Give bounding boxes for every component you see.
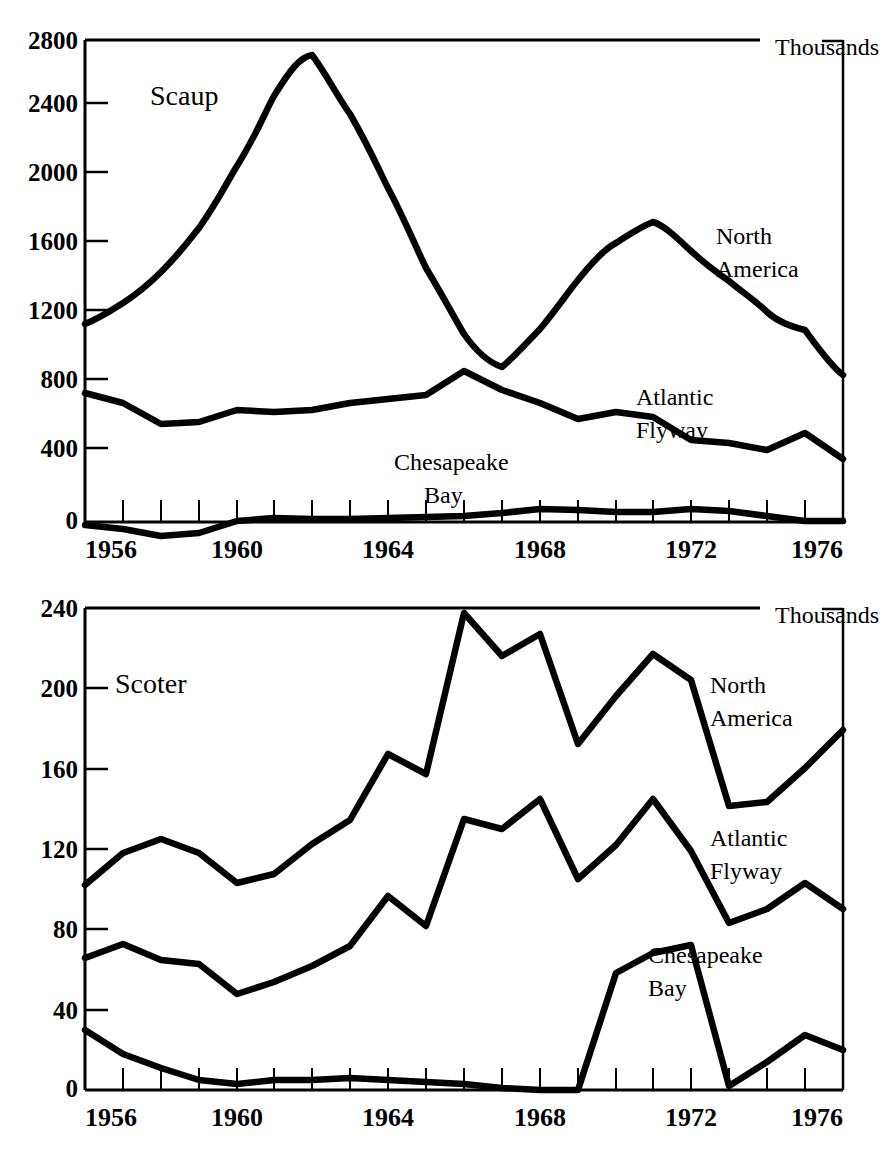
- scaup-xtick-label-1964: 1964: [362, 535, 414, 564]
- scoter-ytick-label-200: 200: [41, 675, 79, 702]
- scoter-label-north-america-line1: North: [710, 672, 766, 698]
- scoter-ytick-label-160: 160: [41, 756, 79, 783]
- scaup-plot-svg: 2800 2400 2000 1600 1200 800 400 0: [0, 0, 894, 584]
- scoter-label-north-america-line2: America: [710, 705, 793, 731]
- scaup-xtick-label-1972: 1972: [665, 535, 717, 564]
- chart-scoter: 240 200 160 120 80 40 0: [0, 568, 894, 1168]
- scoter-xtick-label-1964: 1964: [362, 1103, 414, 1132]
- scoter-label-chesapeake-bay-line1: Chesapeake: [648, 942, 763, 968]
- chart-scaup: 2800 2400 2000 1600 1200 800 400 0: [0, 0, 894, 584]
- scoter-ytick-label-0: 0: [66, 1075, 79, 1102]
- scaup-ytick-label-2800: 2800: [28, 27, 78, 54]
- scoter-plot-title: Scoter: [115, 668, 187, 699]
- scaup-units-label: Thousands: [775, 34, 879, 60]
- scaup-plot-title: Scaup: [150, 80, 218, 111]
- scaup-ytick-label-2400: 2400: [28, 90, 78, 117]
- scaup-label-atlantic-flyway-line1: Atlantic: [636, 384, 713, 410]
- scaup-xtick-label-1976: 1976: [791, 535, 843, 564]
- scaup-label-chesapeake-bay-line2: Bay: [424, 482, 463, 508]
- scoter-y-ticks: [85, 688, 108, 1010]
- scaup-xtick-label-1956: 1956: [85, 535, 137, 564]
- scaup-ytick-label-1200: 1200: [28, 297, 78, 324]
- scaup-ytick-label-400: 400: [41, 435, 79, 462]
- scaup-ytick-label-0: 0: [66, 507, 79, 534]
- scoter-ytick-label-80: 80: [53, 916, 78, 943]
- scaup-ytick-label-800: 800: [41, 366, 79, 393]
- scoter-xtick-label-1976: 1976: [791, 1103, 843, 1132]
- scaup-series-atlantic-flyway: [85, 371, 843, 459]
- scoter-label-atlantic-flyway-line2: Flyway: [710, 858, 782, 884]
- scoter-units-label: Thousands: [775, 602, 879, 628]
- scaup-label-chesapeake-bay-line1: Chesapeake: [394, 449, 509, 475]
- scoter-label-atlantic-flyway-line1: Atlantic: [710, 825, 787, 851]
- scaup-label-north-america-line2: America: [716, 256, 799, 282]
- scoter-xtick-label-1972: 1972: [665, 1103, 717, 1132]
- scaup-label-north-america-line1: North: [716, 223, 772, 249]
- scoter-ytick-label-120: 120: [41, 836, 79, 863]
- scoter-ytick-label-40: 40: [53, 997, 78, 1024]
- scaup-xtick-label-1960: 1960: [211, 535, 263, 564]
- scoter-label-chesapeake-bay-line2: Bay: [648, 975, 687, 1001]
- scoter-xtick-label-1968: 1968: [514, 1103, 566, 1132]
- scoter-xtick-label-1956: 1956: [85, 1103, 137, 1132]
- scaup-ytick-label-1600: 1600: [28, 228, 78, 255]
- scaup-label-atlantic-flyway-line2: Flyway: [636, 417, 708, 443]
- scoter-xtick-label-1960: 1960: [211, 1103, 263, 1132]
- scaup-xtick-label-1968: 1968: [514, 535, 566, 564]
- scoter-ytick-label-240: 240: [41, 595, 79, 622]
- scoter-plot-svg: 240 200 160 120 80 40 0: [0, 568, 894, 1168]
- scaup-ytick-label-2000: 2000: [28, 159, 78, 186]
